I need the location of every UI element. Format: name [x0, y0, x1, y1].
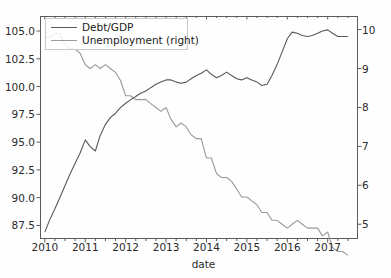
x-tick-label: 2012	[112, 242, 139, 253]
x-tick-label: 2014	[193, 242, 220, 253]
y-tick-label-left: 97.5	[12, 109, 35, 120]
x-tick-label: 2011	[72, 242, 99, 253]
x-axis-title-label: date	[192, 258, 216, 270]
legend-label-unemployment: Unemployment (right)	[82, 35, 199, 46]
series-line-debt-gdp	[45, 30, 348, 232]
y-tick-label-right: 8	[362, 102, 369, 113]
y-tick-label-left: 105.0	[5, 26, 35, 37]
y-tick-label-right: 6	[362, 180, 369, 191]
legend-entry-unemployment: Unemployment (right)	[49, 34, 184, 47]
x-tick-label: 2017	[314, 242, 341, 253]
x-tick-label: 2016	[274, 242, 301, 253]
legend-entry-debt-gdp: Debt/GDP	[49, 21, 184, 34]
y-tick-label-right: 9	[362, 63, 369, 74]
chart-legend: Debt/GDP Unemployment (right)	[45, 18, 188, 50]
y-tick-label-right: 5	[362, 219, 369, 230]
y-tick-label-left: 87.5	[12, 220, 35, 231]
y-tick-label-left: 92.5	[12, 165, 35, 176]
y-tick-label-left: 95.0	[12, 137, 35, 148]
x-axis-title: date	[0, 258, 391, 270]
y-axis-right: 5678910	[362, 0, 390, 278]
x-tick-label: 2010	[31, 242, 58, 253]
legend-label-debt-gdp: Debt/GDP	[82, 22, 133, 33]
y-tick-label-right: 10	[362, 24, 375, 35]
series-line-unemployment	[45, 34, 348, 256]
legend-swatch-unemployment	[51, 40, 77, 41]
chart-figure: 87.590.092.595.097.5100.0102.5105.0 5678…	[0, 0, 391, 278]
y-tick-label-left: 100.0	[5, 81, 35, 92]
y-tick-label-left: 90.0	[12, 192, 35, 203]
y-tick-label-left: 102.5	[5, 54, 35, 65]
x-tick-label: 2015	[234, 242, 261, 253]
y-tick-label-right: 7	[362, 141, 369, 152]
legend-swatch-debt-gdp	[51, 27, 77, 28]
x-tick-label: 2013	[153, 242, 180, 253]
y-axis-left: 87.590.092.595.097.5100.0102.5105.0	[0, 0, 35, 278]
